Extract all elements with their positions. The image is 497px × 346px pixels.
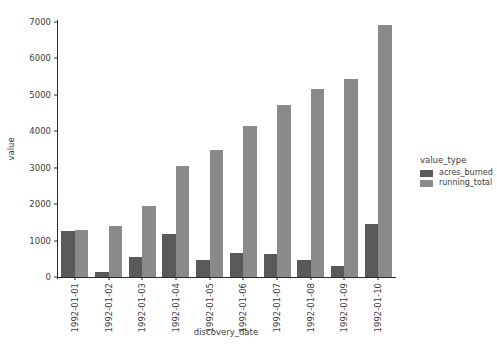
x-tick-label: 1992-01-09 [340,283,349,332]
plot-area: 01000200030004000500060007000 1992-01-01… [58,22,395,277]
x-tick-mark [142,277,143,280]
x-tick-mark [209,277,210,280]
bar [331,266,344,277]
bar [109,226,122,277]
chart-figure: value discovery_date 0100020003000400050… [0,0,497,346]
x-tick-label: 1992-01-02 [104,283,113,332]
bar [162,234,175,277]
bar [297,260,310,277]
x-tick-label: 1992-01-10 [374,283,383,332]
bar [61,231,74,277]
legend-item[interactable]: running_total [420,179,493,187]
y-tick-mark [54,94,57,95]
x-tick-mark [243,277,244,280]
legend-swatch [420,180,433,187]
x-tick-label: 1992-01-05 [205,283,214,332]
bar [176,166,189,277]
x-tick-label: 1992-01-08 [307,283,316,332]
bar [243,126,256,277]
bar [277,105,290,277]
y-tick-mark [54,131,57,132]
x-tick-label: 1992-01-03 [138,283,147,332]
legend-title: value_type [420,155,493,165]
bar [196,260,209,277]
bar [344,79,357,277]
y-tick-mark [54,240,57,241]
x-tick-mark [310,277,311,280]
bar [95,272,108,277]
x-tick-label: 1992-01-01 [71,283,80,332]
legend-item[interactable]: acres_burned [420,169,493,177]
x-tick-label: 1992-01-06 [239,283,248,332]
y-tick-mark [54,204,57,205]
bar [264,254,277,277]
y-tick-mark [54,167,57,168]
bar [378,25,391,277]
legend-entries: acres_burnedrunning_total [420,169,493,187]
legend-label: acres_burned [439,169,493,177]
x-tick-mark [175,277,176,280]
x-axis-label: discovery_date [194,327,258,337]
x-tick-label: 1992-01-07 [273,283,282,332]
y-tick-mark [54,58,57,59]
bar [311,89,324,277]
y-tick-mark [54,22,57,23]
x-tick-mark [344,277,345,280]
bar [75,230,88,277]
bar [142,206,155,277]
x-tick-label: 1992-01-04 [172,283,181,332]
bar [365,224,378,277]
x-tick-mark [378,277,379,280]
legend: value_type acres_burnedrunning_total [420,155,493,189]
legend-label: running_total [439,179,492,187]
y-axis-label: value [6,137,16,160]
y-tick-mark [54,277,57,278]
bar [230,253,243,277]
legend-swatch [420,170,433,177]
bar [210,150,223,278]
x-tick-mark [74,277,75,280]
x-tick-mark [277,277,278,280]
x-tick-mark [108,277,109,280]
bar [129,257,142,277]
